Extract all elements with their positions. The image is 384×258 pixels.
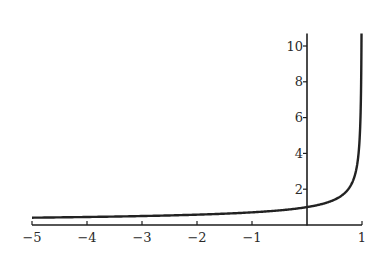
x-tick-label: −3 <box>132 230 151 245</box>
y-tick-label: 10 <box>286 39 303 54</box>
x-tick-label: −2 <box>187 230 206 245</box>
x-tick-label: −4 <box>77 230 96 245</box>
y-tick-label: 2 <box>295 182 303 197</box>
y-tick-label: 4 <box>295 146 303 161</box>
x-tick-label: −1 <box>242 230 261 245</box>
chart-plot: −5−4−3−2−11 246810 <box>0 0 384 258</box>
axes <box>32 33 362 225</box>
x-tick-label: −5 <box>22 230 41 245</box>
x-tick-label: 1 <box>358 230 366 245</box>
y-tick-label: 8 <box>295 74 303 89</box>
function-curve <box>32 33 362 217</box>
y-ticks: 246810 <box>286 39 307 197</box>
y-tick-label: 6 <box>295 110 303 125</box>
